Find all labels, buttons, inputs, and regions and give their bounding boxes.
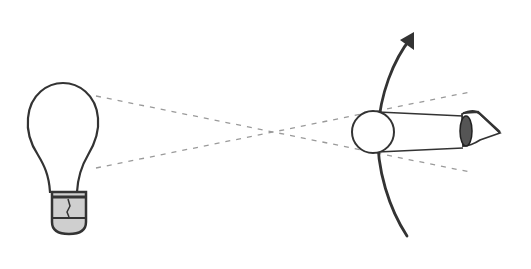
ball — [352, 111, 394, 153]
arrowhead-icon — [400, 32, 414, 50]
light-bulb-icon — [28, 83, 99, 234]
light-rays — [96, 92, 470, 172]
diagram: Light bulb emitting rays that cross and … — [0, 0, 531, 269]
eye-icon — [460, 111, 500, 146]
